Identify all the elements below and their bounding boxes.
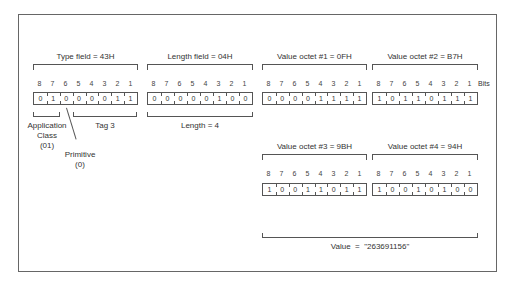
value-octet-4: 10010100 [372, 183, 478, 196]
value-octet-3-bracket [262, 154, 367, 160]
bits-label: Bits [478, 80, 490, 87]
application-class-label: Application Class (01) [22, 121, 72, 151]
bit-header-length: 87654321 [147, 80, 251, 87]
bit-header-value-1: 87654321 [262, 80, 366, 87]
length-field-title: Length field = 04H [147, 52, 253, 61]
type-field-title: Type field = 43H [33, 52, 138, 61]
bit-header-type: 87654321 [33, 80, 137, 87]
value-bracket [262, 233, 478, 238]
bit-header-value-2: 87654321 [372, 80, 476, 87]
value-octet-2-bracket [372, 64, 478, 70]
bit-header-value-3: 87654321 [262, 170, 366, 177]
length-field-bracket [147, 64, 253, 70]
length-label: Length = 4 [147, 121, 253, 131]
type-field-bracket [33, 64, 138, 70]
tag-label: Tag 3 [80, 121, 130, 131]
value-octet-3: 10011011 [262, 183, 367, 196]
value-octet-4-title: Value octet #4 = 94H [372, 142, 478, 151]
value-octet-1-title: Value octet #1 = 0FH [262, 52, 367, 61]
value-label: Value = "263691156" [262, 242, 478, 252]
type-field-octet: 01000011 [33, 92, 138, 105]
bit-header-value-4: 87654321 [372, 170, 476, 177]
value-octet-1-bracket [262, 64, 367, 70]
value-octet-2-title: Value octet #2 = B7H [372, 52, 478, 61]
primitive-label: Primitive (0) [60, 150, 100, 170]
tag-bracket [73, 112, 137, 117]
value-octet-4-bracket [372, 154, 478, 160]
length-field-octet: 00000100 [147, 92, 253, 105]
application-class-bracket [33, 112, 60, 117]
value-octet-3-title: Value octet #3 = 9BH [262, 142, 367, 151]
value-octet-1: 00001111 [262, 92, 367, 105]
length-bracket [147, 112, 253, 117]
value-octet-2: 10110111 [372, 92, 478, 105]
